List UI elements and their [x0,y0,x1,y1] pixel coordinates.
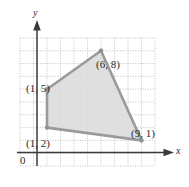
vertex-dot-1-2 [45,125,49,129]
x-axis [17,149,174,157]
point-label-9-1: (9, 1) [131,128,155,139]
quadrilateral-shape [47,51,142,141]
x-axis-arrowhead [164,149,175,157]
y-axis-arrowhead [33,20,41,31]
coordinate-plane-figure: (1, 5) (6, 8) (1, 2) (9, 1) x y 0 [0,0,189,187]
x-axis-label: x [176,146,180,156]
vertex-dot-6-8 [99,49,103,53]
point-label-1-5: (1, 5) [26,83,50,94]
y-axis-label: y [33,8,37,18]
origin-label: 0 [20,155,26,166]
point-label-1-2: (1, 2) [26,138,50,149]
point-label-6-8: (6, 8) [96,59,120,70]
